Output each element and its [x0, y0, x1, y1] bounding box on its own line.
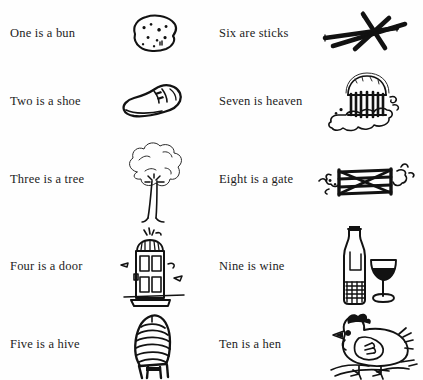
peg-label-five: Five is a hive [10, 338, 102, 352]
list-item-seven-is-heaven: Seven is heaven [209, 68, 423, 136]
list-item-one-is-a-bun: One is a bun [0, 0, 209, 68]
list-item-two-is-a-shoe: Two is a shoe [0, 68, 209, 136]
list-item-ten-is-a-hen: Ten is a hen [209, 310, 423, 380]
list-item-five-is-a-hive: Five is a hive [0, 310, 209, 380]
chart-grid: One is a bun Six are stic [0, 0, 423, 380]
peg-label-four: Four is a door [10, 260, 102, 274]
tree-icon [102, 136, 205, 224]
peg-label-two: Two is a shoe [10, 95, 102, 109]
sticks-icon [315, 0, 419, 68]
list-item-three-is-a-tree: Three is a tree [0, 136, 209, 224]
list-item-eight-is-a-gate: Eight is a gate [209, 136, 423, 224]
peg-label-eight: Eight is a gate [219, 173, 315, 187]
list-item-nine-is-wine: Nine is wine [209, 224, 423, 310]
list-item-six-are-sticks: Six are sticks [209, 0, 423, 68]
list-item-four-is-a-door: Four is a door [0, 224, 209, 310]
peg-word-chart: One is a bun Six are stic [0, 0, 423, 380]
wine-icon [315, 224, 419, 310]
peg-label-three: Three is a tree [10, 173, 102, 187]
door-icon [102, 224, 205, 310]
gate-icon [315, 136, 419, 224]
peg-label-nine: Nine is wine [219, 260, 315, 274]
heaven-icon [315, 68, 419, 136]
hen-icon [315, 310, 419, 380]
peg-label-ten: Ten is a hen [219, 338, 315, 352]
peg-label-six: Six are sticks [219, 27, 315, 41]
peg-label-one: One is a bun [10, 27, 102, 41]
peg-label-seven: Seven is heaven [219, 95, 315, 109]
shoe-icon [102, 68, 205, 136]
bun-icon [102, 0, 205, 68]
hive-icon [102, 310, 205, 380]
